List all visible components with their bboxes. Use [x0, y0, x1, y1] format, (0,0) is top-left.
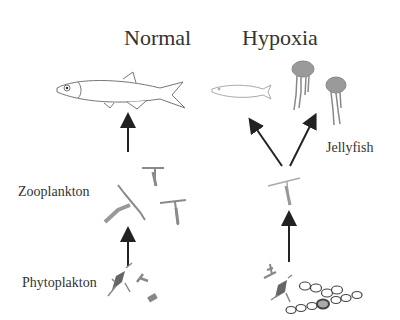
arrow-up-icon: [290, 120, 313, 166]
panel-title-normal: Normal: [124, 25, 191, 51]
food-web-diagram: [0, 0, 400, 320]
zooplankton-icon: [105, 168, 186, 225]
phytoplankton-icon: [264, 264, 292, 302]
fish-icon: [57, 72, 185, 109]
jellyfish-icon: [292, 61, 346, 125]
zooplankton-icon: [268, 178, 300, 205]
phytoplankton-icon: [108, 263, 158, 303]
panel-title-hypoxia: Hypoxia: [242, 25, 318, 51]
arrow-up-icon: [253, 124, 282, 166]
diatom-chain-icon: [286, 282, 362, 314]
fish-icon: [212, 85, 271, 99]
label-phytoplankton: Phytoplakton: [22, 275, 97, 291]
label-jellyfish: Jellyfish: [326, 140, 373, 156]
label-zooplankton: Zooplankton: [18, 184, 90, 200]
